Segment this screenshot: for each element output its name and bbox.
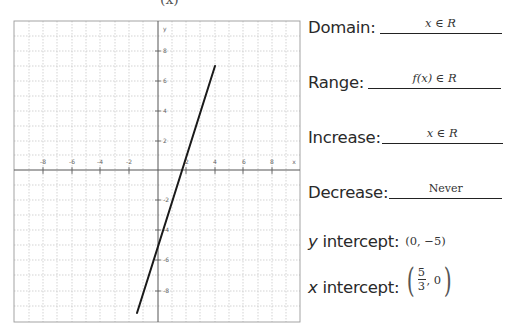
y-tick-label: -6 <box>163 256 169 263</box>
y-tick-label: 4 <box>163 107 167 114</box>
x-tick-label: -6 <box>69 158 75 165</box>
decrease-label: Decrease: <box>308 183 388 202</box>
open-paren: ( <box>407 263 415 297</box>
y-tick-label: 6 <box>163 77 167 84</box>
increase-blank: x ∈ R <box>382 125 503 144</box>
y-intercept-label-text: intercept: <box>317 232 399 251</box>
increase-answer: x ∈ R <box>382 126 503 140</box>
x-axis-label: x <box>292 158 296 165</box>
x-tick-label: 6 <box>242 158 246 165</box>
x-tick-label: 8 <box>270 158 274 165</box>
range-row: Range: f(x) ∈ R <box>308 70 501 92</box>
increase-label: Increase: <box>308 128 381 147</box>
coordinate-graph: -8 -6 -4 -2 2 4 6 8 x y 8 6 4 2 -2 -4 -6… <box>0 0 305 333</box>
y-tick-label: 2 <box>163 137 167 144</box>
range-blank: f(x) ∈ R <box>368 70 501 89</box>
range-answer: f(x) ∈ R <box>368 71 501 85</box>
close-paren: ) <box>444 263 452 297</box>
y-axis-label: y <box>163 25 167 33</box>
fraction-denominator: 3 <box>418 280 425 293</box>
range-label: Range: <box>308 73 364 92</box>
x-tick-label: -4 <box>97 158 103 165</box>
decrease-blank: Never <box>389 180 502 199</box>
x-tick-label: -2 <box>126 158 132 165</box>
x-tick-label: 4 <box>213 158 217 165</box>
domain-row: Domain: x ∈ R <box>308 15 502 37</box>
fraction-numerator: 5 <box>418 266 425 279</box>
domain-label: Domain: <box>308 18 376 37</box>
x-intercept-tail: , 0 <box>427 273 442 287</box>
domain-blank: x ∈ R <box>380 15 502 34</box>
x-tick-label: -8 <box>40 158 46 165</box>
x-intercept-label: x intercept: <box>308 278 399 297</box>
function-line <box>137 66 215 313</box>
y-intercept-row: y intercept: (0, −5) <box>308 232 446 251</box>
x-intercept-row: x intercept: ( 5 3 , 0 ) <box>308 262 454 297</box>
y-tick-label: 8 <box>163 47 167 54</box>
fraction: 5 3 <box>418 266 426 293</box>
answers-panel: Domain: x ∈ R Range: f(x) ∈ R Increase: … <box>308 0 525 333</box>
increase-row: Increase: x ∈ R <box>308 125 503 147</box>
decrease-answer: Never <box>389 182 502 195</box>
y-tick-label: -2 <box>163 196 169 203</box>
x-intercept-answer: ( 5 3 , 0 ) <box>404 263 454 297</box>
x-intercept-label-text: intercept: <box>317 278 399 297</box>
decrease-row: Decrease: Never <box>308 180 502 202</box>
y-tick-label: -8 <box>163 287 169 294</box>
grid <box>14 21 300 322</box>
y-intercept-answer: (0, −5) <box>405 234 446 248</box>
domain-answer: x ∈ R <box>380 16 502 30</box>
y-intercept-label: y intercept: <box>308 232 399 251</box>
